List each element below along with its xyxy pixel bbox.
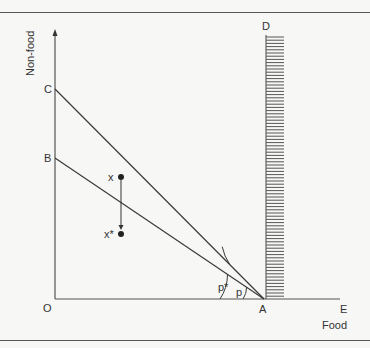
- point-x-star: [118, 231, 124, 237]
- label-x: x: [108, 171, 114, 183]
- label-A: A: [259, 303, 267, 315]
- label-angle-p-star: p*: [218, 281, 229, 293]
- label-C: C: [44, 83, 52, 95]
- y-axis-arrow-icon: [53, 29, 58, 36]
- budget-line-CA: [55, 89, 264, 299]
- angle-arc-p: [243, 287, 247, 299]
- budget-constraint-diagram: Non-food Food C B O A E D x x* p* p: [0, 0, 370, 348]
- label-angle-p: p: [236, 286, 242, 298]
- hatched-barrier-DA: [266, 35, 284, 299]
- y-axis: [53, 29, 58, 299]
- label-O: O: [43, 302, 52, 314]
- arrow-down-icon: [119, 225, 124, 230]
- label-x-star: x*: [104, 228, 115, 240]
- angle-arc-between: [222, 247, 230, 265]
- label-D: D: [262, 20, 270, 32]
- point-x: [118, 174, 124, 180]
- label-E: E: [340, 303, 347, 315]
- y-axis-label: Non-food: [24, 31, 36, 76]
- label-B: B: [44, 152, 51, 164]
- x-axis-label: Food: [322, 319, 347, 331]
- budget-line-BA: [55, 158, 264, 299]
